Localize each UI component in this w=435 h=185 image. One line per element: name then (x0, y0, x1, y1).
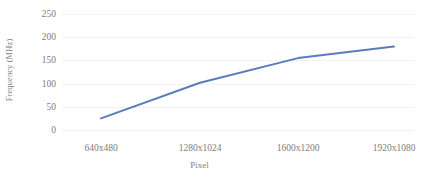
x-axis-tick-labels: 640x480 1280x1024 1600x1200 1920x1080 (0, 143, 435, 157)
line-chart: Frequency (MHz) 250 200 150 100 50 0 640… (0, 0, 435, 185)
plot-area (62, 8, 414, 132)
y-tick-label: 0 (51, 125, 56, 135)
y-tick-label: 150 (42, 55, 56, 65)
x-tick-label: 1920x1080 (373, 143, 416, 153)
x-tick-label: 1280x1024 (179, 143, 222, 153)
y-tick-label: 200 (42, 32, 56, 42)
y-tick-label: 100 (42, 79, 56, 89)
y-tick-label: 50 (47, 102, 57, 112)
x-axis-title: Pixel (0, 160, 435, 170)
y-tick-label: 250 (42, 9, 56, 19)
y-axis-title-label: Frequency (MHz) (4, 39, 14, 102)
series-line (62, 8, 414, 132)
y-axis-tick-labels: 250 200 150 100 50 0 (18, 0, 60, 140)
x-tick-label: 640x480 (84, 143, 117, 153)
x-tick-label: 1600x1200 (277, 143, 320, 153)
x-axis-title-label: Pixel (190, 160, 209, 170)
y-axis-title: Frequency (MHz) (0, 0, 18, 140)
